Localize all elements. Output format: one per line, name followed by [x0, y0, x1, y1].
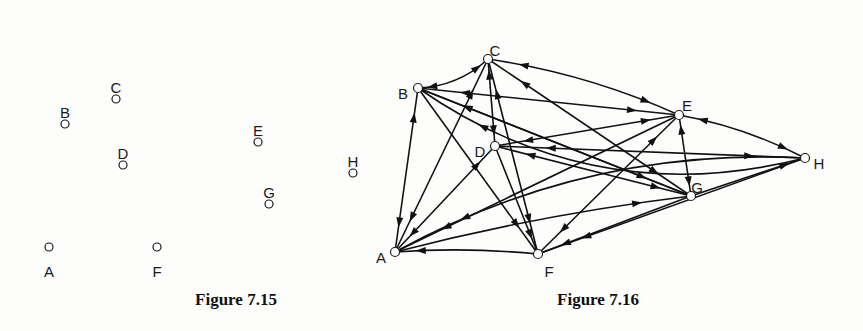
- node-B: B: [398, 84, 423, 103]
- node-G: G: [263, 184, 275, 208]
- node-circle: [534, 250, 543, 259]
- arrowhead-icon: [477, 121, 489, 132]
- figures-canvas: ABCDEFGH Figure 7.15 ABCDEFGH Figure 7.1…: [0, 0, 863, 331]
- figure-7-16: ABCDEFGH Figure 7.16: [376, 42, 824, 309]
- edge-line: [418, 88, 679, 115]
- node-label: C: [111, 79, 122, 96]
- edge-line: [495, 146, 691, 196]
- node-D: D: [475, 142, 500, 161]
- node-label: E: [682, 97, 692, 114]
- arrowhead-icon: [744, 152, 754, 159]
- edge-C-B: [418, 59, 488, 91]
- arrowhead-icon: [406, 211, 417, 223]
- edge-D-A: [395, 146, 495, 252]
- node-circle: [153, 243, 161, 251]
- node-label: H: [814, 155, 825, 172]
- node-circle: [801, 154, 810, 163]
- node-layer: ABCDEFGH: [376, 42, 824, 280]
- node-circle: [45, 243, 53, 251]
- node-label: A: [44, 263, 54, 280]
- node-label: E: [253, 122, 263, 139]
- node-circle: [491, 142, 500, 151]
- node-label: C: [490, 42, 501, 59]
- arrowhead-icon: [648, 166, 660, 177]
- edge-D-G: [495, 146, 691, 196]
- arrowhead-icon: [518, 78, 530, 89]
- edge-B-F: [418, 88, 538, 254]
- node-label: H: [348, 153, 359, 170]
- arrowhead-icon: [492, 88, 501, 99]
- arrowhead-icon: [640, 96, 652, 106]
- node-layer: ABCDEFGH: [44, 79, 358, 280]
- node-label: G: [691, 179, 703, 196]
- node-H: H: [348, 153, 359, 177]
- figure-7-16-caption: Figure 7.16: [557, 290, 639, 309]
- node-A: A: [44, 243, 54, 280]
- node-label: A: [376, 249, 386, 266]
- arrowhead-icon: [777, 142, 789, 152]
- edge-F-A: [395, 247, 538, 254]
- node-circle: [119, 161, 127, 169]
- edge-line: [488, 59, 679, 115]
- node-E: E: [253, 122, 263, 146]
- node-E: E: [675, 97, 693, 120]
- arrowhead-icon: [416, 247, 426, 254]
- node-circle: [112, 95, 120, 103]
- figure-7-15-caption: Figure 7.15: [195, 290, 277, 309]
- node-D: D: [118, 145, 129, 169]
- node-F: F: [152, 243, 161, 280]
- node-label: D: [475, 143, 486, 160]
- node-circle: [61, 120, 69, 128]
- node-circle: [265, 200, 273, 208]
- edge-line: [679, 115, 805, 158]
- arrowhead-icon: [459, 213, 471, 223]
- edge-line: [418, 88, 538, 254]
- node-label: B: [60, 104, 70, 121]
- node-label: F: [152, 263, 161, 280]
- edge-E-B: [418, 88, 679, 115]
- node-circle: [349, 169, 357, 177]
- edge-layer: [395, 59, 805, 254]
- node-C: C: [111, 79, 122, 103]
- node-F: F: [534, 250, 554, 281]
- figure-7-15: ABCDEFGH Figure 7.15: [44, 79, 358, 309]
- arrowhead-icon: [525, 150, 536, 159]
- edge-C-E: [488, 59, 679, 115]
- edge-E-H: [679, 115, 805, 158]
- edge-line: [418, 88, 805, 174]
- arrowhead-icon: [697, 115, 708, 124]
- arrowhead-icon: [546, 144, 556, 151]
- node-H: H: [801, 154, 825, 173]
- arrowhead-icon: [627, 106, 638, 114]
- node-label: G: [263, 184, 275, 201]
- node-B: B: [60, 104, 70, 128]
- edge-line: [418, 59, 488, 88]
- node-circle: [254, 138, 262, 146]
- node-circle: [414, 84, 423, 93]
- edge-H-B: [418, 88, 805, 174]
- edge-H-F: [538, 158, 805, 254]
- node-A: A: [376, 248, 400, 267]
- node-label: F: [544, 263, 553, 280]
- node-label: D: [118, 145, 129, 162]
- node-label: B: [398, 85, 408, 102]
- edge-line: [538, 158, 805, 254]
- node-circle: [391, 248, 400, 257]
